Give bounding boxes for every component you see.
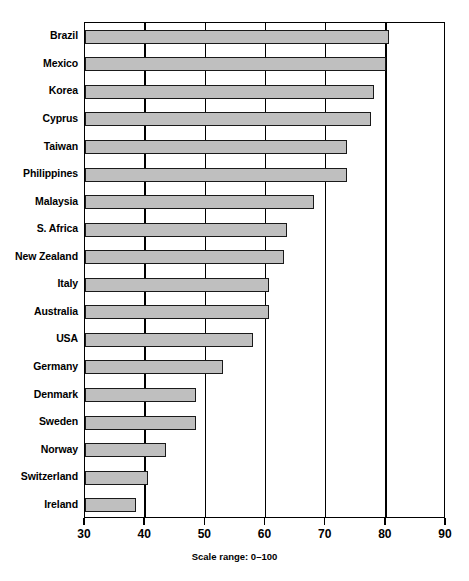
x-tick-label: 70 [305, 527, 345, 541]
category-label: Ireland [0, 499, 78, 510]
bar [85, 416, 196, 430]
x-tick-label: 40 [124, 527, 164, 541]
category-axis-labels: BrazilMexicoKoreaCyprusTaiwanPhilippines… [0, 22, 78, 518]
category-label: Taiwan [0, 141, 78, 152]
category-label: Denmark [0, 389, 78, 400]
x-tick-label: 60 [245, 527, 285, 541]
bar [85, 112, 371, 126]
x-tick-90 [444, 518, 445, 525]
bars-group [85, 23, 444, 517]
x-axis-ticks [84, 518, 445, 526]
bar [85, 195, 314, 209]
category-label: Australia [0, 306, 78, 317]
x-tick-80 [384, 518, 385, 525]
x-tick-label: 80 [365, 527, 405, 541]
bar [85, 471, 148, 485]
x-axis-caption: Scale range: 0–100 [0, 551, 469, 562]
bar [85, 498, 136, 512]
bar [85, 278, 269, 292]
category-label: Germany [0, 361, 78, 372]
x-tick-label: 90 [425, 527, 465, 541]
category-label: S. Africa [0, 223, 78, 234]
bar [85, 250, 284, 264]
category-label: Norway [0, 444, 78, 455]
plot-area [84, 22, 445, 518]
x-tick-label: 30 [64, 527, 104, 541]
category-label: USA [0, 333, 78, 344]
x-axis-tick-labels: 30405060708090 [0, 527, 469, 543]
category-label: Brazil [0, 30, 78, 41]
bar [85, 443, 166, 457]
x-tick-label: 50 [184, 527, 224, 541]
category-label: Switzerland [0, 471, 78, 482]
category-label: Cyprus [0, 113, 78, 124]
category-label: Italy [0, 278, 78, 289]
category-label: Malaysia [0, 196, 78, 207]
category-label: Philippines [0, 168, 78, 179]
bar [85, 168, 347, 182]
category-label: Sweden [0, 416, 78, 427]
bar [85, 333, 253, 347]
bar [85, 360, 223, 374]
category-label: Mexico [0, 58, 78, 69]
x-tick-40 [143, 518, 144, 525]
category-label: New Zealand [0, 251, 78, 262]
category-label: Korea [0, 85, 78, 96]
bar [85, 140, 347, 154]
bar [85, 30, 389, 44]
bar-chart: BrazilMexicoKoreaCyprusTaiwanPhilippines… [0, 0, 469, 581]
bar [85, 85, 374, 99]
x-tick-30 [83, 518, 84, 525]
bar [85, 305, 269, 319]
bar [85, 57, 386, 71]
x-tick-70 [324, 518, 325, 525]
x-tick-60 [264, 518, 265, 525]
bar [85, 388, 196, 402]
x-tick-50 [204, 518, 205, 525]
bar [85, 223, 287, 237]
